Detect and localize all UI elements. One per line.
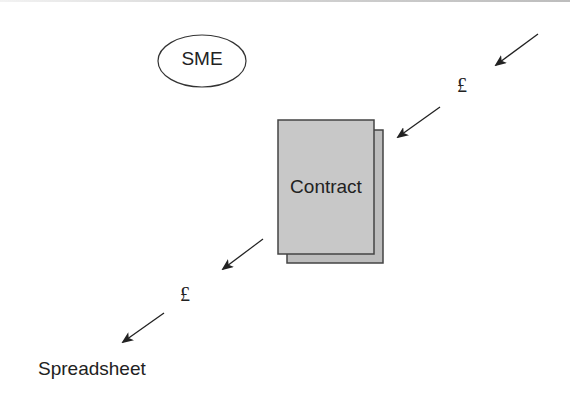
arrow-in-1: [496, 34, 538, 65]
contract-label: Contract: [278, 176, 374, 198]
sme-label: SME: [157, 48, 247, 70]
arrow-out-2: [123, 313, 164, 342]
pound-symbol-in: £: [457, 74, 467, 97]
spreadsheet-label: Spreadsheet: [38, 358, 146, 380]
pound-symbol-out: £: [180, 283, 190, 306]
arrow-out-1: [223, 239, 263, 269]
diagram-canvas: [0, 0, 570, 406]
arrow-in-2: [398, 107, 440, 137]
